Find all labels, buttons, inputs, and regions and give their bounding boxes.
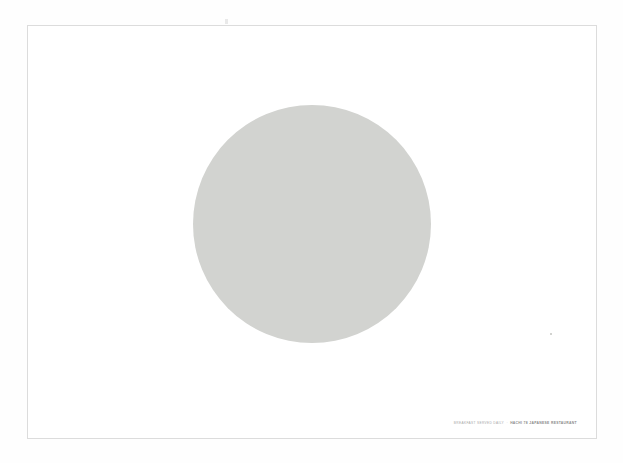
caption-lead-text: Breakfast served daily (454, 422, 504, 425)
poster-frame: Breakfast served daily · Hachi 78 Japane… (27, 25, 597, 439)
poster-scene: Breakfast served daily · Hachi 78 Japane… (0, 0, 623, 463)
poster-caption: Breakfast served daily · Hachi 78 Japane… (454, 422, 577, 425)
caption-brand-text: Hachi 78 Japanese Restaurant (510, 422, 577, 425)
caption-separator: · (507, 422, 508, 425)
disc-speck (550, 333, 552, 335)
registration-mark-icon (225, 19, 228, 24)
rising-sun-disc (193, 105, 431, 343)
